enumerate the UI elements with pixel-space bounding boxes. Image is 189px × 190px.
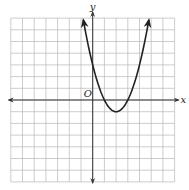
y-axis-label: y: [89, 1, 96, 12]
coordinate-plane: x y O: [0, 0, 189, 190]
origin-label: O: [84, 88, 92, 99]
x-axis-label: x: [181, 94, 187, 105]
